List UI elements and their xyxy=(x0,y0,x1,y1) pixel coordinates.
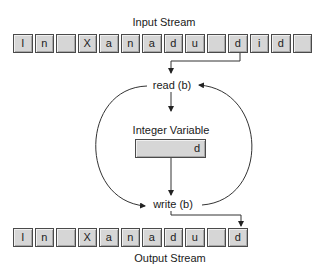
input-cell: I xyxy=(13,34,33,53)
input-cell: n xyxy=(121,34,141,53)
input-cell: a xyxy=(142,34,162,53)
input-cell: u xyxy=(185,34,205,53)
output-stream: I n X a n a d u d xyxy=(13,228,248,247)
input-cell xyxy=(56,34,76,53)
right-loop-arc xyxy=(199,85,252,205)
write-label: write (b) xyxy=(153,198,193,210)
input-cell: d xyxy=(271,34,291,53)
input-cell xyxy=(293,34,313,53)
output-cell: I xyxy=(13,228,33,247)
write-to-output-arrow xyxy=(171,211,241,226)
output-cell: u xyxy=(185,228,205,247)
input-cell: X xyxy=(78,34,98,53)
input-stream: I n X a n a d u d i d xyxy=(13,34,312,53)
integer-variable-box: d xyxy=(135,139,206,158)
input-stream-label: Input Stream xyxy=(133,16,196,28)
output-cell: a xyxy=(142,228,162,247)
read-label: read (b) xyxy=(153,79,192,91)
output-cell: a xyxy=(99,228,119,247)
input-cell xyxy=(207,34,227,53)
input-cell: a xyxy=(99,34,119,53)
output-cell: n xyxy=(35,228,55,247)
output-cell: n xyxy=(121,228,141,247)
output-cell: d xyxy=(228,228,248,247)
output-cell: d xyxy=(164,228,184,247)
input-cell: d xyxy=(164,34,184,53)
output-cell xyxy=(56,228,76,247)
output-stream-label: Output Stream xyxy=(134,252,206,264)
input-cell: i xyxy=(250,34,270,53)
input-cell: n xyxy=(35,34,55,53)
output-cell: X xyxy=(78,228,98,247)
input-cell: d xyxy=(228,34,248,53)
input-to-read-arrow xyxy=(171,53,240,73)
output-cell xyxy=(207,228,227,247)
integer-variable-label: Integer Variable xyxy=(133,124,210,136)
